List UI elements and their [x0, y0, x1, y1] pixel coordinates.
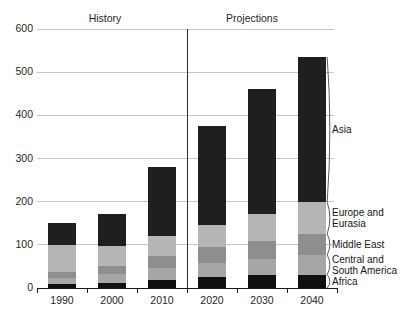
y-axis-label-100: 100 [0, 238, 33, 250]
x-axis-label-2020: 2020 [190, 294, 234, 306]
bar-2030-asia [248, 89, 276, 213]
bar-2020-europe-and-eurasia [198, 225, 226, 247]
bar-2040-asia [298, 57, 326, 202]
y-axis-label-600: 600 [0, 22, 33, 34]
bracket-africa [327, 275, 330, 288]
bracket-middle-east [327, 234, 330, 255]
x-axis-label-2010: 2010 [140, 294, 184, 306]
x-axis-tick [237, 288, 238, 293]
bar-2010-middle-east [148, 256, 176, 267]
x-axis-tick [337, 288, 338, 293]
region-label-asia: Asia [332, 124, 412, 135]
gridline-200 [37, 201, 334, 202]
bar-2000-asia [98, 214, 126, 246]
gridline-100 [37, 244, 334, 245]
x-axis-tick [287, 288, 288, 293]
x-axis-tick [87, 288, 88, 293]
region-label-middle-east: Middle East [332, 239, 412, 250]
bar-2010-asia [148, 167, 176, 236]
region-label-central-and-south-america: Central and South America [332, 254, 412, 276]
bar-1990-central-and-south-america [48, 278, 76, 284]
region-label-africa: Africa [332, 276, 412, 287]
bar-2030-middle-east [248, 241, 276, 259]
y-axis-label-300: 300 [0, 152, 33, 164]
bar-2000-middle-east [98, 266, 126, 274]
y-axis-label-500: 500 [0, 65, 33, 77]
gridline-300 [37, 158, 334, 159]
y-axis-label-200: 200 [0, 195, 33, 207]
bar-2030-africa [248, 275, 276, 288]
x-axis-tick [37, 288, 38, 293]
bar-2020-middle-east [198, 247, 226, 263]
bracket-europe-and-eurasia [327, 202, 330, 234]
x-axis-label-1990: 1990 [40, 294, 84, 306]
bar-1990-middle-east [48, 272, 76, 278]
bar-2040-africa [298, 275, 326, 288]
bar-2040-middle-east [298, 234, 326, 255]
gridline-500 [37, 72, 334, 73]
bar-1990-europe-and-eurasia [48, 245, 76, 272]
history-projections-divider [187, 29, 188, 288]
bar-2010-central-and-south-america [148, 268, 176, 280]
bar-2030-central-and-south-america [248, 259, 276, 276]
bar-2000-africa [98, 283, 126, 288]
y-axis-label-0: 0 [0, 281, 33, 293]
x-axis-tick [187, 288, 188, 293]
bracket-asia [327, 57, 330, 202]
gridline-600 [37, 29, 334, 30]
bar-1990-asia [48, 223, 76, 245]
x-axis-label-2000: 2000 [90, 294, 134, 306]
chart-figure: History Projections 01002003004005006001… [0, 0, 413, 319]
bar-2020-central-and-south-america [198, 263, 226, 278]
region-brackets [326, 0, 336, 319]
bar-2040-europe-and-eurasia [298, 202, 326, 234]
bar-2020-africa [198, 277, 226, 288]
x-axis-label-2030: 2030 [240, 294, 284, 306]
bar-2020-asia [198, 126, 226, 224]
plot-area: 0100200300400500600199020002010202020302… [0, 0, 413, 319]
bracket-central-and-south-america [327, 255, 330, 275]
x-axis-tick [137, 288, 138, 293]
y-axis-label-400: 400 [0, 108, 33, 120]
region-label-europe-and-eurasia: Europe and Eurasia [332, 207, 412, 229]
bar-1990-africa [48, 284, 76, 288]
bar-2010-africa [148, 280, 176, 288]
bar-2010-europe-and-eurasia [148, 236, 176, 257]
gridline-400 [37, 115, 334, 116]
bar-2000-europe-and-eurasia [98, 246, 126, 266]
bar-2030-europe-and-eurasia [248, 214, 276, 241]
bar-2000-central-and-south-america [98, 274, 126, 283]
bar-2040-central-and-south-america [298, 255, 326, 275]
